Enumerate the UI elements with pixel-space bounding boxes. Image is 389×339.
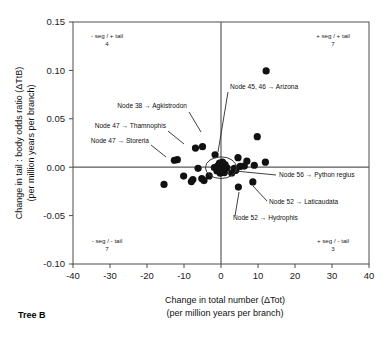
x-axis-title-line2: (per million years per branch) <box>166 308 283 318</box>
data-point <box>160 181 167 188</box>
y-tick-label: 0.05 <box>47 113 66 124</box>
data-point <box>219 159 226 166</box>
x-tick-labels: -40 -30 -20 -10 0 10 20 30 40 <box>66 270 374 281</box>
annot-arizona: Node 45, 46 → Arizona <box>230 83 299 90</box>
data-point <box>217 170 224 177</box>
data-point <box>180 173 187 180</box>
data-point <box>199 143 206 150</box>
quadrant-text: + seg / + tail <box>316 32 350 39</box>
data-point <box>188 178 195 185</box>
data-point <box>235 183 242 190</box>
annot-python-regius: Node 56 → Python regius <box>279 171 355 179</box>
x-tick-label: -40 <box>66 270 80 281</box>
x-tick-label: -20 <box>140 270 154 281</box>
y-tick-label: 0.10 <box>47 65 66 76</box>
quadrant-count: 4 <box>105 40 109 47</box>
annot-thamnophis: Node 47 → Thamnophis <box>95 122 167 130</box>
leader-laticaudata <box>253 186 267 201</box>
data-point <box>251 162 258 169</box>
y-tick-labels: -0.10 -0.05 0.00 0.05 0.10 0.15 <box>43 16 65 269</box>
data-point <box>262 159 269 166</box>
data-point <box>263 67 270 74</box>
plot-svg: -40 -30 -20 -10 0 10 20 30 40 -0.10 -0.0… <box>0 0 389 339</box>
quadrant-count: 7 <box>331 40 335 47</box>
annot-hydrophis: Node 52 → Hydrophis <box>233 214 299 222</box>
y-axis-ticks <box>69 22 73 264</box>
leader-thamnophis <box>168 131 184 144</box>
x-axis-title-line1: Change in total number (ΔTot) <box>165 295 285 305</box>
quadrant-count: 3 <box>331 245 335 252</box>
y-axis-title-line1: Change in tail : body odds ratio (ΔTtB) <box>14 67 24 220</box>
x-tick-label: 40 <box>364 270 375 281</box>
y-tick-label: -0.05 <box>43 210 65 221</box>
quadrant-text: + seg / - tail <box>317 237 349 244</box>
quadrant-count: 7 <box>105 245 109 252</box>
panel-label-tree-b: Tree B <box>18 310 46 320</box>
data-point <box>249 178 256 185</box>
data-point <box>254 133 261 140</box>
annot-storeria: Node 47 → Storeria <box>91 137 150 144</box>
data-point <box>192 144 199 151</box>
annot-agkistrodon: Node 38 → Agkistrodon <box>117 102 187 110</box>
quadrant-label-top-right: + seg / + tail 7 <box>316 32 350 47</box>
leader-hydrophis <box>235 192 239 216</box>
quadrant-label-bottom-left: - seg / - tail 7 <box>92 237 123 252</box>
x-tick-label: -30 <box>103 270 117 281</box>
x-tick-label: -10 <box>177 270 191 281</box>
data-point <box>211 164 218 171</box>
y-tick-label: -0.10 <box>43 258 65 269</box>
x-tick-label: 20 <box>290 270 301 281</box>
x-axis-ticks <box>73 264 369 268</box>
scatter-plot-figure: -40 -30 -20 -10 0 10 20 30 40 -0.10 -0.0… <box>0 0 389 339</box>
leader-storeria <box>151 145 166 157</box>
quadrant-text: - seg / + tail <box>91 32 123 39</box>
y-tick-label: 0.15 <box>47 16 66 27</box>
annot-laticaudata: Node 52 → Laticaudata <box>269 198 339 205</box>
data-point <box>194 165 201 172</box>
data-point <box>234 154 241 161</box>
leader-agkistrodon <box>189 112 201 132</box>
leader-arizona <box>218 92 228 152</box>
quadrant-text: - seg / - tail <box>92 237 123 244</box>
quadrant-label-bottom-right: + seg / - tail 3 <box>317 237 349 252</box>
x-tick-label: 30 <box>327 270 338 281</box>
y-axis-title: Change in tail : body odds ratio (ΔTtB) … <box>14 67 36 220</box>
quadrant-label-top-left: - seg / + tail 4 <box>91 32 123 47</box>
leader-python-regius <box>235 171 276 175</box>
y-tick-label: 0.00 <box>47 162 66 173</box>
y-axis-title-line2: (per million years per branch) <box>26 84 36 201</box>
x-tick-label: 0 <box>218 270 223 281</box>
x-tick-label: 10 <box>253 270 264 281</box>
data-point <box>171 157 178 164</box>
